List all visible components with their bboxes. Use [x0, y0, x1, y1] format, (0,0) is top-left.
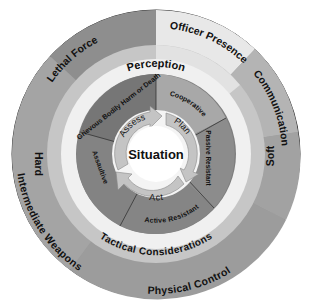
- center-label: Situation: [128, 147, 184, 162]
- hard-label: Hard: [33, 152, 45, 176]
- use-of-force-wheel: Situation Assess Plan Act Cooperative Pa…: [0, 0, 316, 306]
- passive-resistant-label: Passive Resistant: [205, 130, 212, 186]
- act-label: Act: [149, 192, 164, 203]
- soft-label: Soft: [264, 145, 276, 166]
- svg-text:Act: Act: [149, 192, 164, 203]
